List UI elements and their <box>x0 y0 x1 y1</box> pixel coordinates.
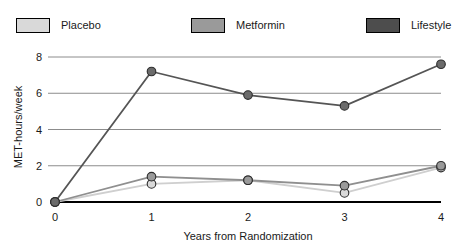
data-point-metformin-year-4 <box>437 161 446 170</box>
legend-item-lifestyle: Lifestyle <box>366 12 451 38</box>
chart-plot-area: 02468 01234 MET-hours/week Years from Ra… <box>0 40 455 252</box>
legend-item-metformin: Metformin <box>191 12 285 38</box>
x-tick-label-3: 3 <box>341 211 347 223</box>
data-point-lifestyle-year-4 <box>437 60 446 69</box>
series-markers <box>51 60 446 206</box>
y-axis-title: MET-hours/week <box>12 85 24 168</box>
x-axis-tick-labels: 01234 <box>52 211 444 223</box>
chart-svg: 02468 01234 MET-hours/week Years from Ra… <box>0 40 455 252</box>
y-tick-label-4: 4 <box>36 124 42 136</box>
data-point-lifestyle-year-3 <box>340 102 349 111</box>
y-tick-label-2: 2 <box>36 160 42 172</box>
y-tick-label-8: 8 <box>36 51 42 63</box>
legend-label-lifestyle: Lifestyle <box>411 20 451 31</box>
x-tick-label-1: 1 <box>148 211 154 223</box>
chart-legend: Placebo Metformin Lifestyle <box>0 12 455 38</box>
axis-ticks <box>48 57 55 166</box>
x-tick-label-0: 0 <box>52 211 58 223</box>
data-point-lifestyle-year-0 <box>51 198 60 207</box>
legend-swatch-metformin <box>191 18 225 33</box>
legend-item-placebo: Placebo <box>16 12 101 38</box>
data-point-metformin-year-2 <box>244 176 253 185</box>
data-point-lifestyle-year-2 <box>244 91 253 100</box>
legend-swatch-lifestyle <box>366 18 400 33</box>
y-tick-label-0: 0 <box>36 196 42 208</box>
legend-label-metformin: Metformin <box>236 20 285 31</box>
x-axis-title: Years from Randomization <box>183 230 312 242</box>
legend-label-placebo: Placebo <box>61 20 101 31</box>
y-axis-tick-labels: 02468 <box>36 51 42 208</box>
data-point-metformin-year-3 <box>340 181 349 190</box>
legend-swatch-placebo <box>16 18 50 33</box>
y-tick-label-6: 6 <box>36 87 42 99</box>
chart-figure: Placebo Metformin Lifestyle 02468 01234 … <box>0 0 455 252</box>
x-tick-label-4: 4 <box>438 211 444 223</box>
gridlines <box>55 57 441 166</box>
data-point-metformin-year-1 <box>147 172 156 181</box>
data-point-lifestyle-year-1 <box>147 67 156 76</box>
x-tick-label-2: 2 <box>245 211 251 223</box>
